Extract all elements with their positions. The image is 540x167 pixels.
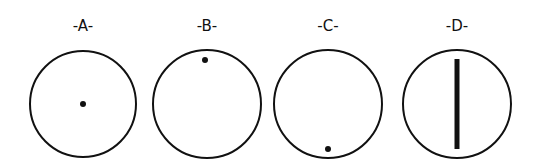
panel-a-center-dot [80, 101, 86, 107]
panel-b-label: -B- [197, 17, 218, 35]
diagram-canvas: -A- -B- -C- -D- [0, 0, 540, 167]
panel-c-label: -C- [317, 17, 338, 35]
panel-b: -B- [153, 17, 261, 158]
panel-a: -A- [30, 17, 136, 157]
panel-d-label: -D- [446, 17, 468, 35]
panel-a-label: -A- [73, 17, 93, 35]
panel-b-top-dot [202, 57, 208, 63]
panel-c-bottom-dot [325, 146, 331, 152]
panel-b-circle [153, 50, 261, 158]
panel-c-circle [274, 50, 382, 158]
panel-c: -C- [274, 17, 382, 158]
panel-d: -D- [403, 17, 511, 158]
